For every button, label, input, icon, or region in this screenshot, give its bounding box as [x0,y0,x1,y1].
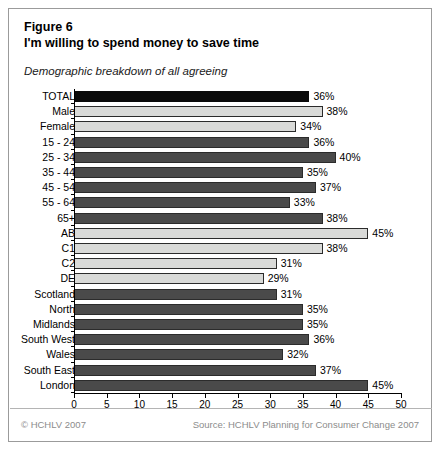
bar-row: North35% [9,302,433,317]
bar-category-label: AB [61,226,75,241]
bar [74,380,368,391]
x-axis-tick [270,394,271,398]
bar [74,365,316,376]
bar-row: 35 - 4435% [9,165,433,180]
bar [74,152,336,163]
bar [74,334,309,345]
bar-value-label: 36% [313,89,334,104]
bar [74,91,309,102]
bar-row: 65+38% [9,211,433,226]
bar [74,289,277,300]
x-axis-tick [238,394,239,398]
bar-value-label: 35% [307,317,328,332]
bar-track [74,89,401,104]
bar [74,213,323,224]
bar-track [74,302,401,317]
figure-number: Figure 6 [24,19,259,35]
bar-value-label: 36% [313,332,334,347]
figure-subtitle: Demographic breakdown of all agreeing [24,65,227,77]
x-axis-tick [205,394,206,398]
bar-chart-plot: TOTAL36%Male38%Female34%15 - 2436%25 - 3… [9,89,433,409]
bar [74,319,303,330]
bar-row: Male38% [9,104,433,119]
bar-value-label: 38% [327,241,348,256]
bar [74,273,264,284]
bar [74,137,309,148]
bar-track [74,256,401,271]
x-axis-tick [303,394,304,398]
x-axis-tick [139,394,140,398]
bar [74,258,277,269]
bar-row: TOTAL36% [9,89,433,104]
bar-category-label: Female [40,119,75,134]
x-axis-tick [172,394,173,398]
bar-value-label: 35% [307,165,328,180]
bar-category-label: TOTAL [42,89,75,104]
bar-value-label: 38% [327,104,348,119]
bar-value-label: 36% [313,135,334,150]
bar [74,106,323,117]
bar-value-label: 37% [320,363,341,378]
bar-value-label: 32% [287,347,308,362]
bar-category-label: Male [52,104,75,119]
bar-track [74,363,401,378]
figure-title: I'm willing to spend money to save time [24,35,259,51]
figure-title-block: Figure 6 I'm willing to spend money to s… [24,19,259,51]
bar-category-label: Scotland [34,287,75,302]
x-axis-tick [368,394,369,398]
bar-track [74,226,401,241]
bar-track [74,347,401,362]
bar-category-label: C2 [62,256,75,271]
bar-category-label: 35 - 44 [42,165,75,180]
bar-category-label: 25 - 34 [42,150,75,165]
bar-row: South East37% [9,363,433,378]
bar-row: South West36% [9,332,433,347]
bar-value-label: 38% [327,211,348,226]
bar-track [74,241,401,256]
bar-track [74,271,401,286]
bar-track [74,195,401,210]
bar [74,182,316,193]
x-axis-tick [336,394,337,398]
bar-category-label: DE [60,271,75,286]
bar-track [74,119,401,134]
bar [74,349,283,360]
x-axis-tick [107,394,108,398]
x-axis-tick [74,394,75,398]
bar-row: Midlands35% [9,317,433,332]
y-axis-line [74,89,75,393]
bar-value-label: 37% [320,180,341,195]
bar [74,167,303,178]
bar-row: 55 - 6433% [9,195,433,210]
bar-category-label: South West [21,332,75,347]
bar-row: London45% [9,378,433,393]
bar-value-label: 45% [372,226,393,241]
bar-track [74,287,401,302]
footer-divider [10,408,432,409]
bar-value-label: 31% [281,256,302,271]
bar [74,197,290,208]
bar-category-label: 45 - 54 [42,180,75,195]
bar-track [74,165,401,180]
bar-row: Wales32% [9,347,433,362]
bar-value-label: 33% [294,195,315,210]
bar [74,228,368,239]
bar-row: 15 - 2436% [9,135,433,150]
bar-track [74,104,401,119]
bar-row: Scotland31% [9,287,433,302]
bar-track [74,378,401,393]
bar-category-label: London [40,378,75,393]
bar-category-label: 55 - 64 [42,195,75,210]
bar [74,243,323,254]
bar-track [74,332,401,347]
bar-value-label: 45% [372,378,393,393]
bar-track [74,317,401,332]
bar [74,121,296,132]
copyright-text: © HCHLV 2007 [21,419,86,430]
bar-track [74,135,401,150]
bar-category-label: 15 - 24 [42,135,75,150]
bar-value-label: 31% [281,287,302,302]
bar-track [74,211,401,226]
source-text: Source: HCHLV Planning for Consumer Chan… [193,419,419,430]
bar-category-label: Wales [46,347,75,362]
